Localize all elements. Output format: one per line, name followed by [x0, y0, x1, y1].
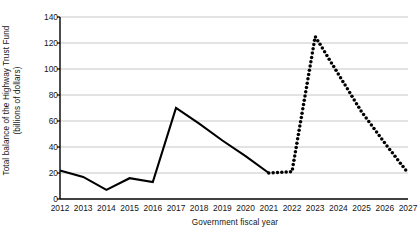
- x-tick-label: 2023: [306, 203, 325, 213]
- x-tick-label: 2019: [213, 203, 232, 213]
- x-tick-label: 2021: [259, 203, 278, 213]
- x-tick-label: 2022: [283, 203, 302, 213]
- x-tick-label: 2013: [74, 203, 93, 213]
- x-tick-label: 2018: [190, 203, 209, 213]
- chart-figure: Total balance of the Highway Trust Fund …: [0, 0, 420, 238]
- x-tick-label: 2015: [120, 203, 139, 213]
- x-tick-label: 2026: [375, 203, 394, 213]
- x-tick-label: 2012: [51, 203, 70, 213]
- x-tick-label: 2025: [352, 203, 371, 213]
- x-tick-label: 2020: [236, 203, 255, 213]
- x-tick-label: 2024: [329, 203, 348, 213]
- x-tick-label: 2014: [97, 203, 116, 213]
- x-tick-labels: 2012201320142015201620172018201920202021…: [0, 0, 420, 238]
- x-tick-label: 2027: [399, 203, 418, 213]
- x-tick-label: 2016: [143, 203, 162, 213]
- x-tick-label: 2017: [167, 203, 186, 213]
- x-axis-title: Government fiscal year: [60, 218, 410, 227]
